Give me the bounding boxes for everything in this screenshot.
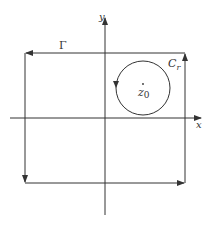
- contour-diagram: Γ Cr z0 y x: [0, 0, 211, 226]
- z0-point: [142, 83, 144, 85]
- axes: [10, 18, 201, 215]
- x-axis-label: x: [196, 119, 202, 130]
- circle-arrow-icon: [113, 81, 119, 88]
- y-axis-label: y: [98, 11, 105, 22]
- gamma-label: Γ: [59, 39, 67, 52]
- cr-label: Cr: [168, 57, 181, 72]
- z0-label-sub: 0: [144, 90, 150, 100]
- z0-label: z0: [137, 86, 150, 100]
- cr-label-sub: r: [176, 63, 181, 72]
